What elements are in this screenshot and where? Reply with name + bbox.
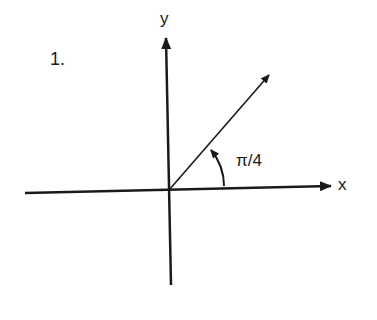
angle-label: π/4 xyxy=(236,152,262,169)
angle-arc xyxy=(211,150,224,186)
x-axis xyxy=(25,186,331,193)
x-axis-label: x xyxy=(338,176,347,193)
axes-figure xyxy=(0,0,377,320)
diagram-canvas: 1. y x π/4 xyxy=(0,0,377,320)
ray-pi-over-4 xyxy=(169,75,269,190)
y-axis xyxy=(166,38,171,285)
y-axis-label: y xyxy=(160,10,169,27)
problem-number: 1. xyxy=(50,50,65,68)
